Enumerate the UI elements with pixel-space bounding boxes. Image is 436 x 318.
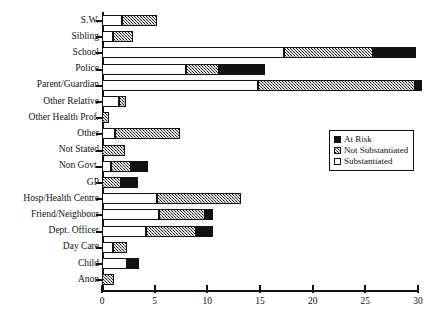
legend-item-substantiated: Substantiated <box>334 156 408 167</box>
bar-segment-substantiated <box>102 80 258 91</box>
bar-row <box>0 258 436 269</box>
x-axis-tick <box>259 285 261 293</box>
bar-segment-at-risk <box>415 80 422 91</box>
bar-segment-not-substantiated <box>102 177 121 188</box>
bar-chart: S.W.SiblingSchoolPoliceParent/GuardianOt… <box>0 0 436 318</box>
legend-label-at-risk: At Risk <box>344 134 372 145</box>
bar-segment-at-risk <box>205 209 212 220</box>
bar-segment-not-substantiated <box>284 47 372 58</box>
legend-item-at-risk: At Risk <box>334 134 408 145</box>
bar-row <box>0 96 436 107</box>
legend-swatch-not-substantiated-icon <box>334 147 341 154</box>
bar-segment-at-risk <box>121 177 138 188</box>
x-axis-tick <box>417 285 419 293</box>
bar-segment-substantiated <box>102 258 127 269</box>
legend: At Risk Not Substantiated Substantiated <box>329 130 414 171</box>
bar-segment-substantiated <box>102 193 157 204</box>
x-axis-tick-label: 25 <box>350 296 380 306</box>
bar-segment-not-substantiated <box>102 112 109 123</box>
bar-segment-not-substantiated <box>102 145 125 156</box>
x-axis-tick-label: 0 <box>87 296 117 306</box>
x-axis-tick-label: 5 <box>140 296 170 306</box>
legend-item-not-substantiated: Not Substantiated <box>334 145 408 156</box>
bar-segment-not-substantiated <box>159 209 205 220</box>
bar-segment-not-substantiated <box>122 15 157 26</box>
bar-row <box>0 226 436 237</box>
bar-segment-at-risk <box>131 161 148 172</box>
x-axis-tick <box>101 285 103 293</box>
bar-segment-at-risk <box>196 226 213 237</box>
x-axis-tick <box>206 285 208 293</box>
bar-segment-not-substantiated <box>113 31 133 42</box>
bar-row <box>0 274 436 285</box>
bar-segment-not-substantiated <box>157 193 241 204</box>
bar-segment-not-substantiated <box>111 161 131 172</box>
legend-label-not-substantiated: Not Substantiated <box>344 145 408 156</box>
legend-label-substantiated: Substantiated <box>344 156 393 167</box>
bar-segment-substantiated <box>102 209 159 220</box>
x-axis-tick-label: 15 <box>245 296 275 306</box>
bar-segment-substantiated <box>102 47 284 58</box>
x-axis-tick-label: 10 <box>192 296 222 306</box>
bar-segment-substantiated <box>102 242 113 253</box>
bar-row <box>0 242 436 253</box>
bar-segment-substantiated <box>102 31 113 42</box>
bar-row <box>0 112 436 123</box>
bar-row <box>0 31 436 42</box>
x-axis-tick-label: 20 <box>298 296 328 306</box>
bar-row <box>0 193 436 204</box>
bar-row <box>0 80 436 91</box>
x-axis-tick <box>312 285 314 293</box>
bar-segment-not-substantiated <box>186 64 219 75</box>
bar-row <box>0 209 436 220</box>
bar-row <box>0 47 436 58</box>
bar-segment-substantiated <box>102 226 146 237</box>
bar-row <box>0 15 436 26</box>
bar-row <box>0 64 436 75</box>
bar-segment-at-risk <box>127 258 139 269</box>
bar-segment-at-risk <box>373 47 416 58</box>
bar-segment-substantiated <box>102 15 122 26</box>
bar-segment-not-substantiated <box>113 242 128 253</box>
x-axis-tick <box>154 285 156 293</box>
x-axis-tick-label: 30 <box>403 296 433 306</box>
bar-segment-at-risk <box>219 64 265 75</box>
bar-segment-not-substantiated <box>115 128 180 139</box>
bar-segment-not-substantiated <box>102 274 114 285</box>
bar-row <box>0 177 436 188</box>
bar-segment-not-substantiated <box>119 96 126 107</box>
legend-swatch-at-risk-icon <box>334 136 341 143</box>
bar-segment-substantiated <box>102 96 119 107</box>
bar-segment-substantiated <box>102 161 111 172</box>
legend-swatch-substantiated-icon <box>334 158 341 165</box>
bar-segment-substantiated <box>102 128 115 139</box>
bar-segment-not-substantiated <box>258 80 415 91</box>
bar-segment-not-substantiated <box>146 226 196 237</box>
bar-segment-substantiated <box>102 64 186 75</box>
x-axis-tick <box>364 285 366 293</box>
